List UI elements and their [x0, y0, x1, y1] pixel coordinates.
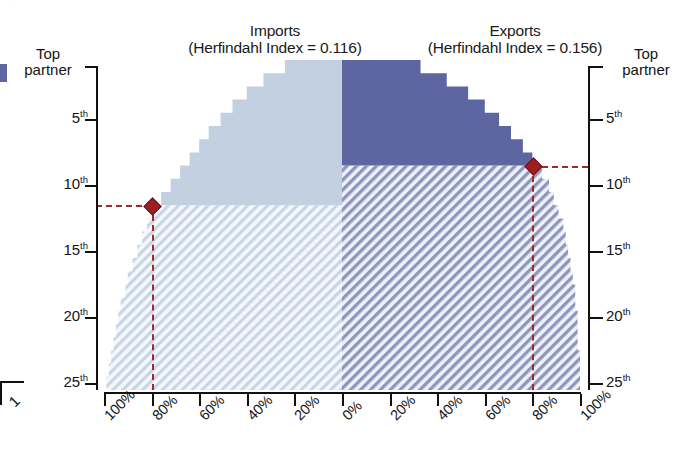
imports-distribution — [106, 60, 342, 390]
exports-distribution — [342, 60, 580, 390]
ordinal-suffix: th — [623, 240, 631, 251]
y-axis-tick-right — [590, 66, 603, 68]
x-axis-tick — [104, 394, 106, 406]
ordinal-suffix: th — [80, 108, 88, 119]
y-axis-tick-right — [590, 251, 603, 253]
x-axis-tick — [485, 394, 487, 406]
y-axis-tick-right — [590, 185, 603, 187]
exports-herfindahl-text: (Herfindahl Index = 0.156) — [400, 39, 630, 56]
ordinal-suffix: th — [614, 108, 622, 119]
ordinal-suffix: th — [80, 240, 88, 251]
ordinal-suffix: th — [623, 372, 631, 383]
distribution-plot — [104, 60, 580, 390]
x-axis-label-10: 100% — [577, 387, 614, 424]
y-axis-label-right-3: 15th — [606, 241, 631, 258]
exports-title-text: Exports — [400, 22, 630, 39]
ordinal-suffix: th — [80, 372, 88, 383]
y-axis-left-line — [96, 66, 98, 390]
x-axis-tick — [294, 394, 296, 406]
y-axis-tick-right — [590, 383, 603, 385]
ordinal-suffix: th — [80, 306, 88, 317]
y-axis-tick-right — [590, 317, 603, 319]
x-axis-tick — [247, 394, 249, 406]
y-axis-label-left-0: Toppartner — [8, 46, 88, 78]
x-axis-tick — [532, 394, 534, 406]
x-axis-tick — [342, 394, 344, 406]
y-axis-label-right-0: Toppartner — [606, 46, 682, 78]
y-axis-label-left-3: 15th — [28, 241, 88, 258]
y-axis-right-line — [588, 66, 590, 390]
imports-herfindahl-text: (Herfindahl Index = 0.116) — [160, 39, 390, 56]
ordinal-suffix: th — [80, 174, 88, 185]
y-top-line2: partner — [24, 61, 72, 78]
imports-panel-title: Imports (Herfindahl Index = 0.116) — [160, 22, 390, 57]
y-axis-label-right-4: 20th — [606, 307, 631, 324]
imports-title-text: Imports — [160, 22, 390, 39]
x-axis-tick — [199, 394, 201, 406]
y-axis-tick-right — [590, 119, 603, 121]
chart-figure: · Imports (Herfindahl Index = 0.116) Exp… — [0, 0, 682, 450]
y-axis-label-right-1: 5th — [606, 109, 622, 126]
y-top-line2: partner — [622, 61, 670, 78]
ordinal-suffix: th — [623, 306, 631, 317]
x-axis-tick — [390, 394, 392, 406]
y-top-line1: Top — [634, 45, 658, 62]
y-axis-label-right-5: 25th — [606, 373, 631, 390]
imports-guide-vertical — [152, 205, 154, 390]
ordinal-suffix: th — [623, 174, 631, 185]
exports-panel-title: Exports (Herfindahl Index = 0.156) — [400, 22, 630, 57]
x-axis-tick — [437, 394, 439, 406]
y-axis-label-left-5: 25th — [28, 373, 88, 390]
y-top-line1: Top — [36, 45, 60, 62]
y-axis-label-left-2: 10th — [28, 175, 88, 192]
plot-area — [104, 60, 580, 390]
exports-guide-vertical — [532, 166, 534, 390]
crop-artifact-top: · — [14, 1, 17, 11]
y-axis-label-left-1: 5th — [28, 109, 88, 126]
y-axis-label-right-2: 10th — [606, 175, 631, 192]
x-axis-tick — [152, 394, 154, 406]
legend-color-swatch — [0, 64, 7, 82]
x-axis-tick — [580, 394, 582, 406]
y-axis-label-left-4: 20th — [28, 307, 88, 324]
